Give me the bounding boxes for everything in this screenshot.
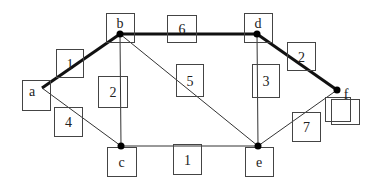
edge-weight-label-bd: 6 — [168, 16, 197, 43]
node-label: d — [255, 16, 262, 31]
weight-text: 7 — [303, 120, 310, 135]
vertex-dot-c — [118, 143, 125, 150]
edge-weight-label-de: 3 — [253, 65, 280, 98]
vertex-dot-f — [334, 87, 341, 94]
weight-text: 1 — [184, 153, 191, 168]
edge-d-e — [257, 34, 258, 146]
node-label: f — [344, 87, 349, 102]
weight-text: 2 — [298, 50, 305, 65]
nodes-layer: abcdef — [23, 14, 360, 177]
edge-b-e — [120, 34, 258, 146]
weight-text: 5 — [187, 74, 194, 89]
node-d: d — [245, 14, 273, 43]
weight-text: 6 — [179, 22, 186, 37]
edge-weight-label-ce: 1 — [174, 145, 202, 175]
node-f: f — [326, 87, 360, 125]
weight-text: 2 — [110, 85, 117, 100]
edge-weight-label-ef: 7 — [293, 113, 321, 142]
edge-labels-layer: 142653217 — [55, 16, 321, 175]
graph-diagram: 142653217 abcdef — [0, 0, 377, 186]
node-e: e — [246, 148, 274, 177]
node-label: a — [29, 84, 36, 99]
edge-b-c — [120, 34, 121, 146]
weight-text: 4 — [65, 115, 72, 130]
edge-weight-label-ac: 4 — [55, 108, 83, 137]
node-box-duplicate — [332, 100, 360, 125]
vertex-dot-b — [117, 31, 124, 38]
weight-text: 1 — [67, 57, 74, 72]
edge-weight-label-be: 5 — [177, 65, 204, 97]
node-label: b — [117, 16, 124, 31]
vertex-dot-e — [255, 143, 262, 150]
node-label: e — [256, 155, 262, 170]
node-c: c — [108, 148, 137, 177]
vertex-dot-d — [254, 31, 261, 38]
weight-text: 3 — [263, 74, 270, 89]
edge-weight-label-bc: 2 — [99, 77, 128, 108]
node-label: c — [118, 155, 124, 170]
